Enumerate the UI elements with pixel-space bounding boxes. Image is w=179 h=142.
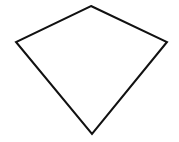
diagram-canvas [0,0,179,142]
kite-diagram [0,0,179,142]
kite-shape [16,6,167,134]
